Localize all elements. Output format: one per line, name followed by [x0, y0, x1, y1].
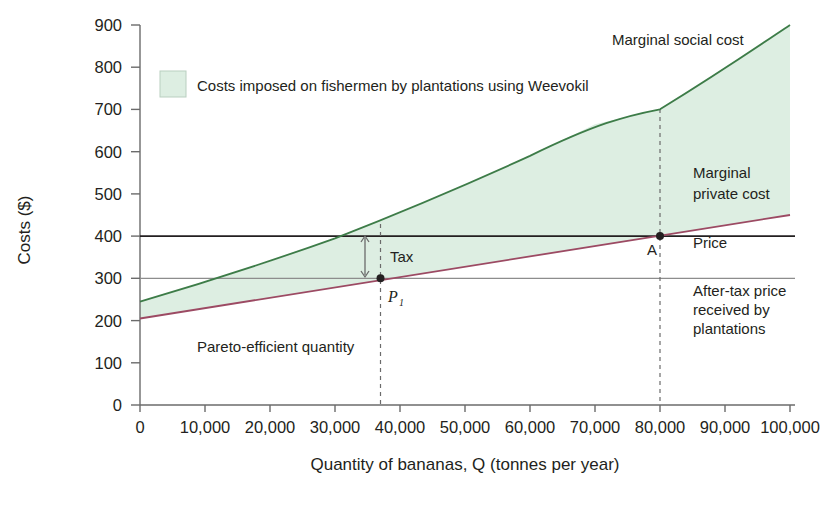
x-tick-30000: 30,000 — [310, 418, 360, 436]
point-p1-sublabel: 1 — [399, 297, 404, 308]
x-tick-40000: 40,000 — [375, 418, 425, 436]
x-tick-60000: 60,000 — [505, 418, 555, 436]
marginal-private-cost-label-line2: private cost — [693, 185, 771, 202]
y-axis-title: Costs ($) — [15, 196, 34, 265]
y-tick-0: 0 — [113, 396, 122, 414]
after-tax-price-label-line1: After-tax price — [693, 282, 786, 299]
marginal-social-cost-label: Marginal social cost — [612, 31, 745, 48]
point-p1-marker — [377, 274, 385, 282]
x-tick-90000: 90,000 — [700, 418, 750, 436]
y-tick-700: 700 — [94, 100, 122, 118]
y-axis-ticks — [131, 25, 140, 405]
point-p1-label: P — [387, 288, 398, 305]
legend-swatch — [160, 71, 186, 97]
x-tick-100000: 100,000 — [760, 418, 820, 436]
x-tick-0: 0 — [135, 418, 144, 436]
externality-chart: 900 800 700 600 500 400 300 200 100 0 0 … — [0, 0, 838, 507]
y-tick-800: 800 — [94, 58, 122, 76]
chart-container: 900 800 700 600 500 400 300 200 100 0 0 … — [0, 0, 838, 507]
y-tick-300: 300 — [94, 269, 122, 287]
y-tick-600: 600 — [94, 143, 122, 161]
x-tick-20000: 20,000 — [245, 418, 295, 436]
y-tick-400: 400 — [94, 227, 122, 245]
x-tick-10000: 10,000 — [180, 418, 230, 436]
tax-label: Tax — [390, 248, 414, 265]
after-tax-price-label-line3: plantations — [693, 320, 766, 337]
x-axis-ticks — [140, 405, 790, 412]
x-tick-80000: 80,000 — [635, 418, 685, 436]
x-axis-title: Quantity of bananas, Q (tonnes per year) — [310, 455, 619, 474]
y-tick-900: 900 — [94, 16, 122, 34]
after-tax-price-label-line2: received by — [693, 301, 770, 318]
y-tick-200: 200 — [94, 312, 122, 330]
marginal-private-cost-label-line1: Marginal — [693, 164, 751, 181]
x-tick-50000: 50,000 — [440, 418, 490, 436]
point-a-marker — [656, 232, 664, 240]
point-a-label: A — [647, 241, 657, 258]
pareto-efficient-quantity-label: Pareto-efficient quantity — [197, 338, 355, 355]
legend-label: Costs imposed on fishermen by plantation… — [197, 77, 589, 94]
y-tick-500: 500 — [94, 185, 122, 203]
y-tick-100: 100 — [94, 354, 122, 372]
x-tick-70000: 70,000 — [570, 418, 620, 436]
price-label: Price — [693, 234, 727, 251]
